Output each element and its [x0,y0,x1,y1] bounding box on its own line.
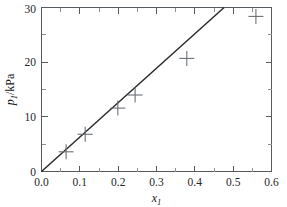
x-axis-title: x1 [151,191,162,207]
x-tick-label: 0.0 [34,176,49,188]
x-tick-label: 0.4 [188,176,203,188]
x-tick-labels: 0.0 0.1 0.2 0.3 0.4 0.5 0.6 [34,176,279,188]
x-axis-title-subscript: 1 [157,197,161,207]
scatter-plot: 0.0 0.1 0.2 0.3 0.4 0.5 0.6 0 10 20 30 x… [0,0,287,207]
x-tick-label: 0.1 [73,176,88,188]
y-axis-title: p1/kPa [3,73,19,106]
y-tick-label: 10 [25,111,37,123]
x-tick-label: 0.2 [111,176,126,188]
figure-container: 0.0 0.1 0.2 0.3 0.4 0.5 0.6 0 10 20 30 x… [0,0,287,207]
x-tick-label: 0.6 [264,176,279,188]
y-axis-title-base: p [3,99,17,106]
y-axis-title-unit: /kPa [3,73,17,95]
x-tick-label: 0.5 [226,176,241,188]
y-tick-label: 0 [30,166,36,178]
y-tick-label: 20 [25,56,37,68]
x-tick-label: 0.3 [149,176,164,188]
plot-area-background [41,7,272,172]
y-tick-labels: 0 10 20 30 [25,3,37,178]
y-tick-label: 30 [25,3,37,15]
